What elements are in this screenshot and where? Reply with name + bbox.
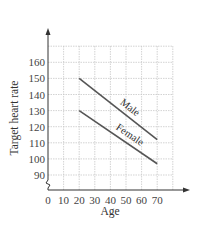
chart: 90100110120130140150160 010203040506070 …: [0, 0, 199, 239]
grid: [48, 46, 173, 190]
x-axis-label: Age: [100, 205, 119, 218]
series-line-female: [79, 111, 157, 164]
series-lines: MaleFemale: [79, 78, 157, 163]
y-tick-label: 110: [29, 137, 46, 149]
x-tick-label: 10: [58, 194, 70, 206]
x-tick-label: 30: [89, 194, 101, 206]
x-axis-arrow-icon: [183, 188, 190, 193]
x-tick-label: 50: [121, 194, 133, 206]
axis-break-icon: [46, 180, 50, 190]
x-tick-label: 0: [45, 194, 51, 206]
x-tick-label: 60: [136, 194, 148, 206]
y-tick-label: 160: [29, 56, 46, 68]
y-tick-label: 150: [29, 72, 46, 84]
y-tick-label: 130: [29, 105, 46, 117]
x-tick-label: 70: [152, 194, 164, 206]
y-tick-label: 100: [29, 153, 46, 165]
y-tick-label: 140: [29, 89, 46, 101]
y-tick-label: 120: [29, 121, 46, 133]
y-axis-arrow-icon: [46, 28, 51, 35]
series-label-male: Male: [118, 96, 142, 118]
y-tick-labels: 90100110120130140150160: [29, 56, 46, 181]
y-axis-label: Target heart rate: [8, 81, 21, 156]
y-tick-label: 90: [34, 169, 46, 181]
x-tick-label: 20: [74, 194, 86, 206]
series-label-female: Female: [114, 121, 146, 148]
